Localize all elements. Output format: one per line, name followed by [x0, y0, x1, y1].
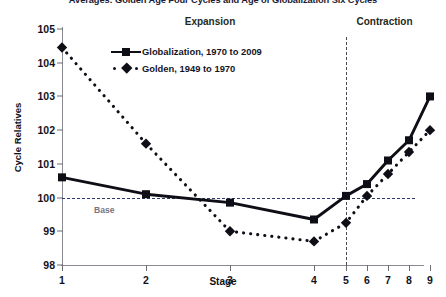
x-tick-mark — [346, 265, 347, 271]
contraction-label: Contraction — [356, 16, 412, 27]
data-point-marker — [342, 192, 350, 200]
x-tick-label: 4 — [311, 274, 317, 286]
x-tick-mark — [409, 265, 410, 271]
x-tick-mark — [388, 265, 389, 271]
data-point-marker — [226, 199, 234, 207]
legend-swatch-globalization-icon — [111, 46, 141, 58]
data-point-marker — [309, 236, 319, 246]
x-tick-label: 3 — [227, 274, 233, 286]
x-tick-label: 1 — [59, 274, 65, 286]
y-tick-label: 99 — [21, 225, 55, 237]
legend-label-golden: Golden, 1949 to 1970 — [142, 63, 235, 74]
x-tick-mark — [314, 265, 315, 271]
x-tick-label: 7 — [385, 274, 391, 286]
x-axis-label: Stage — [0, 276, 446, 287]
x-tick-label: 9 — [427, 274, 433, 286]
data-point-marker — [310, 215, 318, 223]
y-tick-label: 100 — [21, 192, 55, 204]
y-tick-label: 104 — [21, 57, 55, 69]
y-tick-label: 105 — [21, 23, 55, 35]
data-point-marker — [57, 42, 67, 52]
x-tick-label: 2 — [143, 274, 149, 286]
chart-canvas: Averages: Golden Age Four Cycles and Age… — [0, 0, 446, 297]
expansion-label: Expansion — [185, 16, 236, 27]
x-tick-label: 5 — [343, 274, 349, 286]
y-tick-label: 101 — [21, 158, 55, 170]
data-point-marker — [141, 138, 151, 148]
series-path — [62, 96, 430, 219]
data-point-marker — [384, 156, 392, 164]
data-point-marker — [225, 226, 235, 236]
x-tick-label: 6 — [364, 274, 370, 286]
y-tick-label: 103 — [21, 90, 55, 102]
chart-legend: Globalization, 1970 to 2009 Golden, 1949… — [111, 43, 311, 77]
legend-item-globalization: Globalization, 1970 to 2009 — [111, 43, 311, 60]
data-point-marker — [58, 173, 66, 181]
legend-label-globalization: Globalization, 1970 to 2009 — [142, 46, 262, 57]
y-tick-label: 98 — [21, 259, 55, 271]
data-point-marker — [362, 191, 372, 201]
x-tick-mark — [367, 265, 368, 271]
x-tick-label: 8 — [406, 274, 412, 286]
x-tick-mark — [430, 265, 431, 271]
x-tick-mark — [146, 265, 147, 271]
x-axis-line — [61, 265, 424, 266]
x-tick-mark — [62, 265, 63, 271]
data-point-marker — [405, 136, 413, 144]
y-tick-label: 102 — [21, 124, 55, 136]
data-point-marker — [426, 92, 434, 100]
x-tick-mark — [230, 265, 231, 271]
data-point-marker — [363, 180, 371, 188]
chart-title: Averages: Golden Age Four Cycles and Age… — [0, 0, 446, 5]
data-point-marker — [142, 190, 150, 198]
legend-swatch-golden-icon — [111, 63, 141, 75]
legend-item-golden: Golden, 1949 to 1970 — [111, 60, 311, 77]
